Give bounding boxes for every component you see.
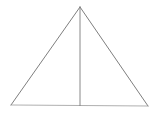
figure-background: [0, 0, 156, 116]
triangle-figure: [0, 0, 156, 116]
